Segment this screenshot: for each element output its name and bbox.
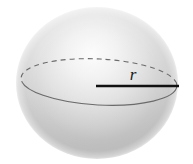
radius-label: r: [130, 65, 137, 84]
sphere-shading: [16, 7, 178, 159]
sphere-figure: r: [0, 0, 193, 164]
sphere-diagram-canvas: r: [0, 0, 193, 164]
sphere-body: [16, 7, 178, 159]
